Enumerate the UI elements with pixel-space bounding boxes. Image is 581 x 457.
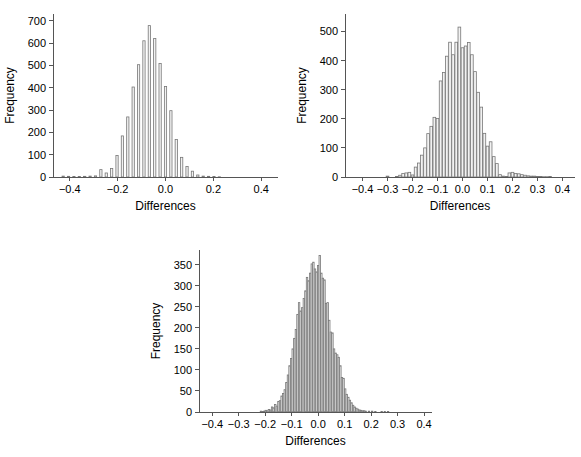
x-tick-label: 0.0: [158, 183, 173, 195]
y-tick-label: 400: [320, 55, 338, 67]
histogram-bar: [496, 164, 499, 177]
y-tick-label: 100: [174, 364, 192, 376]
y-axis: 0100200300400500: [320, 14, 345, 183]
y-tick-label: 50: [180, 385, 192, 397]
histogram-bar: [408, 172, 411, 177]
histogram-bar: [455, 42, 458, 177]
histogram-bar: [186, 167, 188, 177]
y-axis: 050100150200250300350: [174, 250, 199, 418]
x-tick-label: −0.2: [107, 183, 129, 195]
histogram-bar: [402, 174, 405, 177]
histogram-panel-1: 0100200300400500600700−0.4−0.20.00.20.4D…: [0, 0, 290, 220]
x-tick-label: −0.1: [427, 183, 449, 195]
histogram-bar: [480, 107, 483, 177]
y-tick-label: 300: [174, 280, 192, 292]
y-axis: 0100200300400500600700: [28, 14, 53, 183]
histogram-bar: [143, 41, 145, 177]
x-axis-title: Differences: [135, 199, 195, 213]
histogram-bar: [442, 73, 445, 177]
x-axis: −0.4−0.3−0.2−0.10.00.10.20.30.4: [345, 177, 575, 195]
y-tick-label: 700: [28, 15, 46, 27]
y-tick-label: 100: [28, 149, 46, 161]
y-axis-title: Frequency: [149, 303, 163, 360]
histogram-bar: [105, 173, 107, 177]
histogram-bar: [154, 39, 156, 177]
histogram-bar: [137, 65, 139, 177]
x-tick-label: −0.4: [59, 183, 81, 195]
histogram-bar: [164, 87, 166, 177]
histogram-bar: [417, 163, 420, 177]
histogram-bar: [436, 118, 439, 177]
histogram-bar: [127, 117, 129, 177]
x-tick-label: −0.2: [254, 418, 276, 430]
x-axis-title: Differences: [285, 434, 345, 448]
chart-svg-panel-3: 050100150200250300350−0.4−0.3−0.2−0.10.0…: [145, 232, 445, 457]
histogram-bar: [414, 167, 417, 177]
y-tick-label: 500: [320, 25, 338, 37]
x-tick-label: 0.3: [530, 183, 545, 195]
histogram-bar: [514, 174, 517, 177]
x-tick-label: 0.3: [390, 418, 405, 430]
bars-group: [260, 255, 389, 412]
histogram-bar: [511, 172, 514, 177]
y-tick-label: 200: [174, 322, 192, 334]
y-tick-label: 400: [28, 82, 46, 94]
histogram-bar: [508, 173, 511, 177]
histogram-bar: [430, 126, 433, 177]
y-tick-label: 0: [40, 171, 46, 183]
chart-svg-panel-2: 0100200300400500−0.4−0.3−0.2−0.10.00.10.…: [290, 0, 581, 220]
x-tick-label: 0.4: [555, 183, 570, 195]
histogram-panel-3: 050100150200250300350−0.4−0.3−0.2−0.10.0…: [145, 232, 445, 457]
histogram-bar: [446, 56, 449, 177]
y-tick-label: 350: [174, 259, 192, 271]
histogram-bar: [427, 134, 430, 177]
histogram-bar: [439, 81, 442, 177]
histogram-bar: [449, 42, 452, 177]
x-tick-label: −0.3: [228, 418, 250, 430]
histogram-bar: [477, 92, 480, 177]
x-axis-title: Differences: [430, 199, 490, 213]
x-tick-label: 0.4: [416, 418, 431, 430]
y-tick-label: 100: [320, 142, 338, 154]
x-tick-label: 0.0: [310, 418, 325, 430]
x-tick-label: −0.4: [201, 418, 223, 430]
y-tick-label: 600: [28, 37, 46, 49]
x-tick-label: 0.0: [455, 183, 470, 195]
histogram-bar: [433, 117, 436, 177]
histogram-bar: [424, 148, 427, 177]
histogram-bar: [405, 173, 408, 177]
x-axis: −0.4−0.20.00.20.4: [53, 177, 278, 195]
histogram-bar: [421, 155, 424, 177]
histogram-bar: [170, 111, 172, 177]
x-tick-label: 0.2: [363, 418, 378, 430]
y-tick-label: 500: [28, 59, 46, 71]
y-tick-label: 200: [320, 113, 338, 125]
histogram-bar: [100, 170, 102, 177]
x-tick-label: 0.1: [337, 418, 352, 430]
histogram-bar: [452, 55, 455, 177]
y-tick-label: 150: [174, 343, 192, 355]
histogram-bar: [132, 87, 134, 177]
x-tick-label: −0.1: [281, 418, 303, 430]
histogram-bar: [474, 72, 477, 177]
y-axis-title: Frequency: [3, 67, 17, 124]
bars-group: [386, 27, 551, 177]
histogram-bar: [181, 157, 183, 177]
histogram-bar: [489, 142, 492, 177]
x-tick-label: 0.2: [505, 183, 520, 195]
histogram-bar: [159, 64, 161, 177]
histogram-bar: [471, 55, 474, 177]
y-tick-label: 300: [320, 84, 338, 96]
x-tick-label: 0.4: [254, 183, 269, 195]
x-tick-label: −0.4: [352, 183, 374, 195]
y-tick-label: 0: [332, 171, 338, 183]
histogram-bar: [486, 146, 489, 177]
histogram-bar: [116, 156, 118, 177]
histogram-bar: [483, 133, 486, 177]
x-tick-label: −0.3: [377, 183, 399, 195]
histogram-bar: [492, 157, 495, 177]
y-axis-title: Frequency: [295, 67, 309, 124]
x-axis: −0.4−0.3−0.2−0.10.00.10.20.30.4: [199, 412, 432, 430]
histogram-bar: [111, 169, 113, 177]
histogram-bar: [461, 48, 464, 177]
